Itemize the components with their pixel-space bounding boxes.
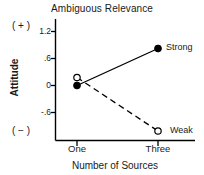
series-line-strong	[77, 49, 158, 86]
chart-figure: Ambiguous Relevance Attitude ( + ) ( − )…	[0, 0, 204, 175]
data-point-strong-three	[155, 45, 162, 52]
series-line-weak	[77, 78, 158, 132]
data-point-weak-one	[74, 74, 80, 80]
plot-area	[0, 0, 204, 175]
data-point-weak-three	[155, 128, 161, 134]
data-point-strong-one	[74, 82, 81, 89]
